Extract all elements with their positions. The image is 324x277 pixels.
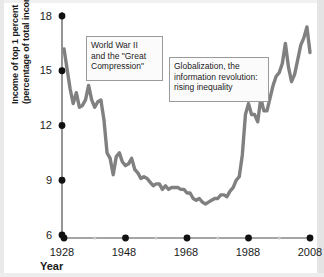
x-tick-label-1928: 1928 <box>40 246 84 258</box>
y-tick-dot-6 <box>59 232 66 239</box>
cropped-caption-remnant <box>60 0 220 5</box>
x-tick-label-1948: 1948 <box>102 246 146 258</box>
annotation-globalization-line-1: Globalization, the <box>174 61 264 72</box>
x-minor-tick-dot-1978 <box>216 237 219 240</box>
annotation-globalization: Globalization, the information revolutio… <box>169 57 269 102</box>
y-axis-label-line-1: Income of top 1 percent <box>10 0 21 104</box>
x-tick-label-1968: 1968 <box>164 246 208 258</box>
y-tick-label-18: 18 <box>32 10 52 22</box>
y-tick-dot-18 <box>59 13 66 20</box>
annotation-ww2-line-3: Compression" <box>91 61 158 72</box>
y-axis-label-line-2: (percentage of total income) <box>21 0 32 104</box>
chart-figure: Income of top 1 percent (percentage of t… <box>0 0 324 277</box>
y-tick-dot-12 <box>59 122 66 129</box>
x-axis-label: Year <box>40 260 63 272</box>
y-axis-label: Income of top 1 percent (percentage of t… <box>10 0 31 104</box>
x-tick-label-2008: 2008 <box>288 246 324 258</box>
annotation-ww2-line-2: and the "Great <box>91 51 158 62</box>
y-tick-label-15: 15 <box>32 64 52 76</box>
x-minor-tick-dot-1998 <box>278 237 281 240</box>
x-tick-dot-1988 <box>245 235 252 242</box>
x-minor-tick-dot-1938 <box>93 237 96 240</box>
x-tick-label-1988: 1988 <box>226 246 270 258</box>
annotation-globalization-line-2: information revolution: <box>174 72 264 83</box>
annotation-world-war-ii: World War II and the "Great Compression" <box>86 36 163 81</box>
y-tick-label-9: 9 <box>32 174 52 186</box>
y-tick-dot-15 <box>59 67 66 74</box>
x-tick-dot-1948 <box>122 235 129 242</box>
annotation-ww2-line-1: World War II <box>91 40 158 51</box>
y-tick-label-6: 6 <box>32 229 52 241</box>
y-tick-label-12: 12 <box>32 119 52 131</box>
x-minor-tick-dot-1958 <box>155 237 158 240</box>
x-tick-dot-1968 <box>184 235 191 242</box>
y-tick-dot-9 <box>59 177 66 184</box>
x-tick-dot-2008 <box>307 235 314 242</box>
annotation-globalization-line-3: rising inequality <box>174 82 264 93</box>
